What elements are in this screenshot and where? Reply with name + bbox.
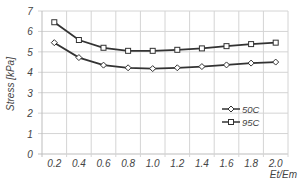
x-tick-label: 1.4: [195, 158, 209, 169]
diamond-marker-icon: [150, 66, 156, 72]
x-tick-label: 2.0: [268, 158, 283, 169]
y-tick-label: 4: [27, 67, 33, 78]
y-tick-label: 3: [27, 88, 33, 99]
diamond-marker-icon: [224, 62, 230, 68]
x-tick-label: 1.6: [220, 158, 234, 169]
diamond-marker-icon: [248, 60, 254, 66]
x-tick-label: 0.2: [47, 158, 61, 169]
legend-square-icon: [229, 120, 234, 125]
legend: 50C95C: [222, 104, 260, 128]
square-marker-icon: [199, 46, 204, 51]
diamond-marker-icon: [101, 62, 107, 68]
x-tick-label: 0.4: [72, 158, 86, 169]
y-axis-ticks: 01234567: [26, 6, 33, 160]
legend-item-95C: 95C: [222, 117, 260, 128]
diamond-marker-icon: [199, 64, 205, 70]
y-tick-label: 1: [27, 129, 33, 140]
square-marker-icon: [175, 47, 180, 52]
y-tick-label: 7: [27, 6, 33, 17]
x-axis-title: Et/Em: [270, 169, 297, 180]
line-chart: 01234567 0.20.40.60.81.01.21.41.61.82.0 …: [0, 0, 307, 190]
diamond-marker-icon: [174, 65, 180, 71]
square-marker-icon: [101, 45, 106, 50]
x-tick-label: 1.2: [170, 158, 184, 169]
x-axis-ticks: 0.20.40.60.81.01.21.41.61.82.0: [47, 158, 283, 169]
diamond-marker-icon: [125, 65, 131, 71]
legend-label: 50C: [242, 104, 260, 115]
square-marker-icon: [224, 44, 229, 49]
legend-diamond-icon: [228, 106, 234, 112]
y-tick-label: 0: [27, 149, 33, 160]
diamond-marker-icon: [273, 59, 279, 65]
square-marker-icon: [273, 40, 278, 45]
square-marker-icon: [126, 48, 131, 53]
x-tick-label: 1.8: [244, 158, 258, 169]
square-marker-icon: [52, 20, 57, 25]
y-axis-title: Stress [kPa]: [5, 57, 16, 111]
y-tick-label: 5: [27, 47, 33, 58]
x-tick-label: 1.0: [146, 158, 160, 169]
legend-label: 95C: [242, 117, 260, 128]
x-tick-label: 0.6: [97, 158, 111, 169]
y-tick-label: 2: [26, 108, 33, 119]
square-marker-icon: [150, 48, 155, 53]
square-marker-icon: [76, 38, 81, 43]
y-tick-label: 6: [27, 26, 33, 37]
square-marker-icon: [249, 42, 254, 47]
x-tick-label: 0.8: [121, 158, 135, 169]
gridlines: [38, 11, 288, 157]
